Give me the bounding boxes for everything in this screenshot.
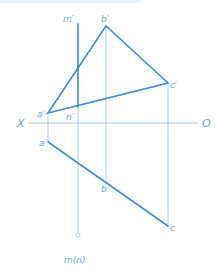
label-c: c xyxy=(170,223,175,233)
line-abc-horizontal xyxy=(48,142,168,226)
cropped-text-strip xyxy=(0,0,140,3)
label-n-prime: n′ xyxy=(66,112,74,122)
label-a-prime: a′ xyxy=(37,109,45,119)
axis-label-o: O xyxy=(202,117,211,130)
axis-label-x: X xyxy=(16,117,25,130)
label-m-prime: m′ xyxy=(63,14,74,24)
label-b-prime: b′ xyxy=(101,14,109,24)
label-mn: m(n) xyxy=(64,255,86,265)
point-mn-horizontal xyxy=(76,233,80,237)
label-c-prime: c′ xyxy=(170,80,177,90)
label-b: b xyxy=(101,184,107,194)
triangle-frontal xyxy=(48,26,168,113)
projection-diagram: X O m′ b′ c′ a′ n′ a b c m(n) xyxy=(0,0,217,280)
label-a: a xyxy=(39,138,45,148)
